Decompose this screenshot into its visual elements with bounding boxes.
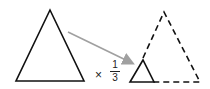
- arrow: [68, 32, 132, 63]
- multiply-sign: ×: [95, 68, 102, 82]
- diagram-svg: [0, 0, 210, 89]
- diagram-canvas: × 1 3: [0, 0, 210, 89]
- scale-fraction: 1 3: [110, 60, 120, 83]
- fraction-numerator: 1: [112, 59, 118, 70]
- original-triangle: [16, 10, 84, 81]
- fraction-denominator: 3: [112, 72, 118, 83]
- reference-outline-triangle: [143, 12, 200, 82]
- scaled-triangle: [130, 60, 154, 82]
